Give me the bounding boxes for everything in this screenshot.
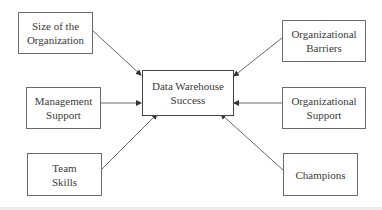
arrow-barriers-to-success	[234, 38, 282, 76]
box-label-line: Support	[307, 108, 342, 122]
box-data-warehouse-success: Data Warehouse Success	[142, 70, 234, 116]
box-team-skills: Team Skills	[27, 153, 102, 196]
bottom-divider	[0, 207, 382, 210]
box-label-line: Organization	[27, 33, 84, 47]
box-label-line: Size of the	[32, 19, 79, 33]
box-management-support: Management Support	[26, 87, 101, 129]
box-label-line: Data Warehouse	[152, 79, 224, 93]
box-label-line: Skills	[52, 175, 77, 189]
box-champions: Champions	[283, 153, 358, 196]
box-label-line: Organizational	[291, 27, 356, 41]
box-label-line: Support	[46, 108, 81, 122]
box-label-line: Champions	[295, 168, 345, 182]
arrow-team-to-success	[101, 114, 157, 170]
arrow-size-to-success	[92, 30, 141, 75]
box-label-line: Barriers	[306, 41, 341, 55]
box-organizational-support: Organizational Support	[282, 87, 366, 129]
box-label-line: Organizational	[291, 94, 356, 108]
box-organizational-barriers: Organizational Barriers	[282, 20, 366, 62]
diagram-canvas: Size of the Organization Management Supp…	[0, 0, 382, 210]
box-size-of-organization: Size of the Organization	[18, 12, 93, 54]
box-label-line: Management	[35, 94, 92, 108]
box-label-line: Success	[171, 93, 206, 107]
box-label-line: Team	[52, 161, 76, 175]
arrow-champions-to-success	[221, 114, 283, 170]
